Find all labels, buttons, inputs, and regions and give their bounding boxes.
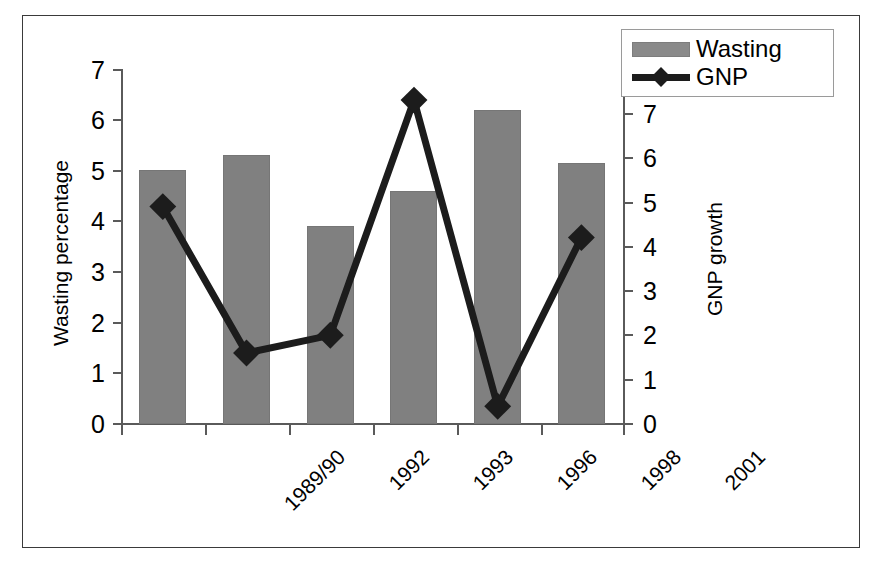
legend-label-wasting: Wasting — [696, 35, 782, 63]
bar-1996 — [390, 191, 437, 424]
x-tick-6 — [623, 424, 625, 435]
bar-1993 — [307, 226, 354, 424]
left-tick-label-0: 0 — [71, 412, 105, 437]
plot-area: 0 1 2 3 4 5 6 7 0 1 2 3 4 5 6 7 8 — [23, 16, 861, 549]
right-tick-7 — [623, 113, 633, 115]
bar-2001 — [558, 163, 605, 424]
legend-label-gnp: GNP — [696, 63, 748, 91]
left-tick-5 — [113, 170, 123, 172]
left-tick-3 — [113, 271, 123, 273]
left-tick-label-2: 2 — [71, 311, 105, 336]
left-tick-1 — [113, 372, 123, 374]
right-tick-1 — [623, 379, 633, 381]
left-tick-4 — [113, 220, 123, 222]
legend-item-wasting: Wasting — [632, 35, 782, 63]
x-tick-1 — [205, 424, 207, 435]
right-tick-3 — [623, 290, 633, 292]
left-tick-7 — [113, 69, 123, 71]
right-tick-label-7: 7 — [643, 102, 677, 127]
left-tick-label-7: 7 — [71, 58, 105, 83]
left-tick-label-5: 5 — [71, 159, 105, 184]
chart-frame: 0 1 2 3 4 5 6 7 0 1 2 3 4 5 6 7 8 — [22, 15, 860, 548]
chart-legend: Wasting GNP — [621, 29, 834, 97]
right-tick-4 — [623, 246, 633, 248]
x-tick-3 — [373, 424, 375, 435]
left-tick-label-3: 3 — [71, 260, 105, 285]
legend-bar-swatch-icon — [632, 42, 690, 57]
x-tick-0 — [121, 424, 123, 435]
left-tick-6 — [113, 119, 123, 121]
left-axis-line — [121, 69, 123, 424]
right-tick-label-1: 1 — [643, 368, 677, 393]
right-axis-title: GNP growth — [703, 202, 727, 316]
right-tick-label-0: 0 — [643, 412, 677, 437]
x-tick-2 — [289, 424, 291, 435]
right-tick-label-3: 3 — [643, 279, 677, 304]
bar-1989-90 — [139, 170, 186, 424]
legend-line-diamond-swatch-icon — [632, 67, 690, 87]
left-tick-label-6: 6 — [71, 108, 105, 133]
left-tick-2 — [113, 322, 123, 324]
bar-1992 — [223, 155, 270, 424]
bar-1998 — [474, 110, 521, 424]
left-tick-label-4: 4 — [71, 209, 105, 234]
left-tick-label-1: 1 — [71, 361, 105, 386]
x-tick-5 — [541, 424, 543, 435]
x-tick-4 — [457, 424, 459, 435]
right-tick-5 — [623, 202, 633, 204]
legend-item-gnp: GNP — [632, 63, 748, 91]
right-tick-label-4: 4 — [643, 235, 677, 260]
right-tick-label-5: 5 — [643, 191, 677, 216]
right-tick-label-6: 6 — [643, 146, 677, 171]
right-tick-2 — [623, 334, 633, 336]
left-axis-title: Wasting percentage — [49, 160, 73, 346]
right-tick-label-2: 2 — [643, 323, 677, 348]
right-tick-6 — [623, 157, 633, 159]
